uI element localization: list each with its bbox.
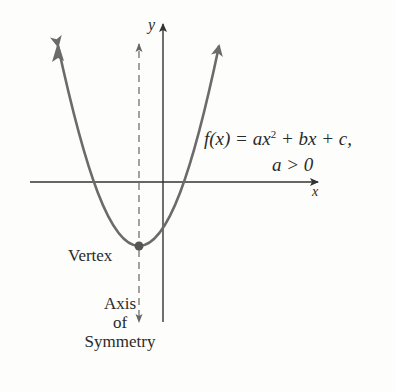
equation-suffix: + bx + c, (276, 128, 352, 149)
vertex-point (135, 242, 144, 251)
axis-label-line-3: Symmetry (60, 332, 160, 351)
curve-arrow-left-icon (52, 42, 64, 62)
equation-line-2: a > 0 (272, 154, 313, 176)
axis-label-line-1: Axis (60, 294, 160, 313)
axis-label-line-2: of (60, 313, 160, 332)
parabola-curve (58, 46, 139, 246)
x-axis-label: x (312, 184, 318, 200)
y-axis-label: y (148, 16, 155, 34)
axis-of-symmetry-label: Axis of Symmetry (60, 294, 160, 351)
equation-prefix: f(x) = ax (204, 128, 271, 149)
vertex-label: Vertex (68, 246, 112, 266)
equation-line-1: f(x) = ax2 + bx + c, (204, 128, 352, 150)
